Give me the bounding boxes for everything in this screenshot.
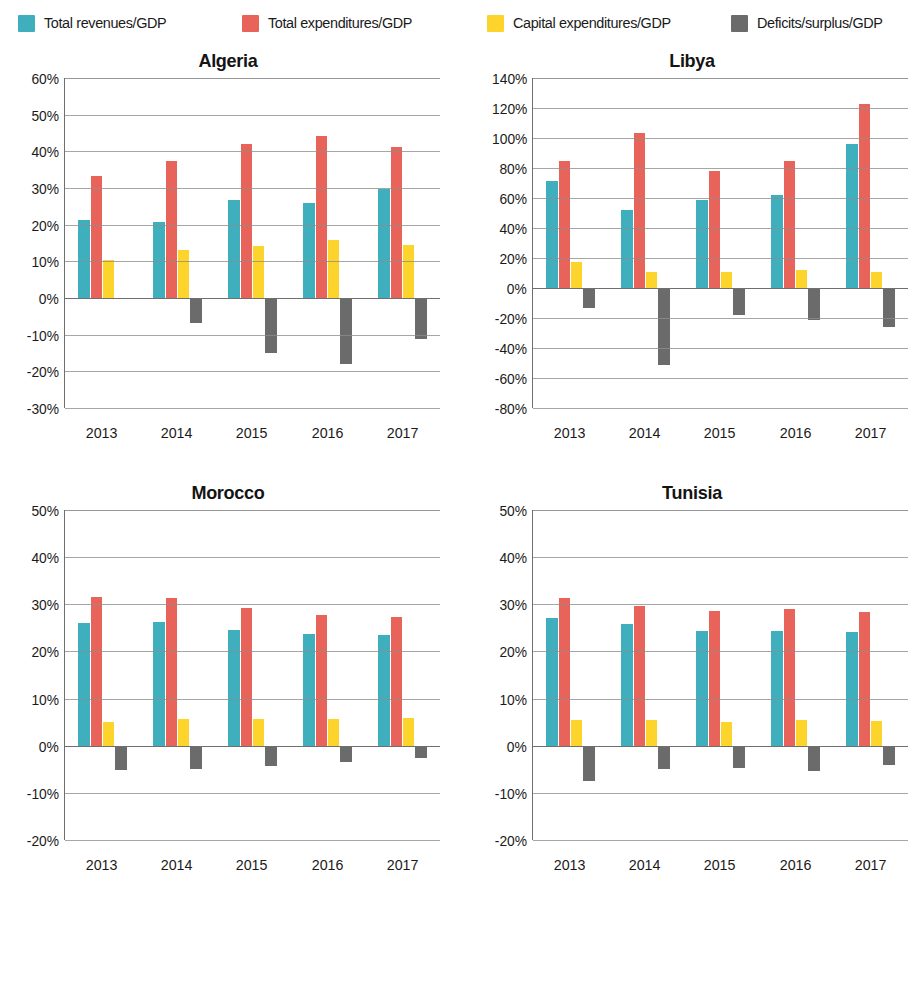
bar-2016-series-1: [784, 161, 796, 289]
bar-2015-series-1: [709, 171, 721, 288]
bar-groups-algeria: [65, 78, 440, 408]
bar-2017-series-2: [871, 721, 883, 746]
plot-canvas-tunisia: [532, 510, 908, 840]
bar-group-2016: [758, 510, 833, 840]
zero-axis-line: [65, 746, 440, 747]
bar-2015-series-1: [709, 611, 721, 746]
bar-2014-series-2: [646, 272, 658, 288]
x-tick-label-2017: 2017: [368, 424, 437, 442]
gridline: [65, 651, 440, 652]
bar-2014-series-2: [646, 720, 658, 746]
chart-title-morocco: Morocco: [19, 482, 437, 504]
chart-panel-libya: Libya 140%120%100%80%60%40%20%0%-20%-40%…: [468, 50, 916, 408]
bar-2016-series-3: [808, 746, 820, 771]
legend-label-deficit: Deficits/surplus/GDP: [757, 14, 883, 32]
bar-group-2013: [65, 78, 140, 408]
bar-2015-series-0: [696, 200, 708, 288]
gridline: [65, 151, 440, 152]
gridline: [533, 699, 908, 700]
bar-2016-series-0: [771, 631, 783, 746]
y-tick-label: 60%: [31, 70, 59, 87]
x-tick-label-2017: 2017: [836, 424, 905, 442]
gridline: [65, 510, 440, 511]
y-tick-label: 0%: [507, 280, 527, 297]
y-tick-label: -20%: [495, 832, 527, 849]
chart-grid: Algeria 60%50%40%30%20%10%0%-10%-20%-30%…: [0, 50, 916, 981]
bar-2016-series-2: [796, 720, 808, 746]
bar-2014-series-1: [166, 598, 178, 746]
bar-2014-series-1: [634, 606, 646, 746]
bar-2014-series-3: [658, 746, 670, 770]
gridline: [533, 840, 908, 841]
y-tick-label: 50%: [31, 106, 59, 123]
y-tick-label: 0%: [39, 290, 59, 307]
bar-2015-series-1: [241, 608, 253, 746]
bar-2016-series-1: [316, 136, 328, 298]
x-tick-label-2016: 2016: [761, 856, 830, 874]
plot-area-libya: 140%120%100%80%60%40%20%0%-20%-40%-60%-8…: [468, 78, 916, 408]
bar-2016-series-1: [316, 615, 328, 746]
bar-2013-series-2: [571, 262, 583, 288]
x-tick-label-2013: 2013: [535, 424, 604, 442]
y-tick-label: 50%: [499, 502, 527, 519]
gridline: [533, 408, 908, 409]
y-tick-label: 40%: [499, 549, 527, 566]
legend-label-expenditures: Total expenditures/GDP: [268, 14, 412, 32]
y-tick-label: 30%: [31, 180, 59, 197]
gridline: [65, 604, 440, 605]
y-tick-label: -30%: [27, 400, 59, 417]
gridline: [533, 78, 908, 79]
zero-axis-line: [533, 288, 908, 289]
bar-group-2015: [683, 78, 758, 408]
y-tick-label: -10%: [27, 784, 59, 801]
x-axis-tunisia: 20132014201520162017: [532, 856, 908, 874]
y-tick-label: 50%: [31, 502, 59, 519]
plot-canvas-libya: [532, 78, 908, 408]
bar-2017-series-3: [883, 746, 895, 765]
bar-2017-series-3: [415, 746, 427, 759]
y-tick-label: 0%: [39, 737, 59, 754]
legend-swatch-red-icon: [242, 15, 259, 32]
legend-swatch-teal-icon: [18, 15, 35, 32]
bar-2013-series-3: [583, 746, 595, 781]
chart-title-algeria: Algeria: [19, 50, 437, 72]
bar-2017-series-3: [415, 298, 427, 339]
bar-2017-series-1: [391, 617, 403, 745]
bar-2017-series-0: [846, 632, 858, 746]
bar-2014-series-3: [190, 746, 202, 769]
bar-2015-series-2: [253, 246, 265, 298]
y-tick-label: 80%: [499, 160, 527, 177]
gridline: [65, 793, 440, 794]
bar-groups-tunisia: [533, 510, 908, 840]
gridline: [533, 348, 908, 349]
x-tick-label-2015: 2015: [685, 856, 754, 874]
y-tick-label: 40%: [31, 143, 59, 160]
y-tick-label: 140%: [492, 70, 527, 87]
y-tick-label: 20%: [31, 643, 59, 660]
gridline: [65, 557, 440, 558]
legend-item-expenditures: Total expenditures/GDP: [242, 14, 423, 32]
chart-panel-morocco: Morocco 50%40%30%20%10%0%-10%-20% 201320…: [8, 482, 448, 840]
plot-area-algeria: 60%50%40%30%20%10%0%-10%-20%-30%: [8, 78, 448, 408]
bar-2014-series-2: [178, 719, 190, 745]
y-tick-label: -10%: [495, 784, 527, 801]
legend-item-revenues: Total revenues/GDP: [18, 14, 176, 32]
x-tick-label-2013: 2013: [67, 424, 136, 442]
y-tick-label: 30%: [499, 596, 527, 613]
bar-2013-series-1: [91, 597, 103, 746]
bar-2017-series-2: [403, 245, 415, 298]
gridline: [533, 108, 908, 109]
bar-2014-series-0: [153, 622, 165, 746]
gridline: [533, 510, 908, 511]
gridline: [533, 651, 908, 652]
x-tick-label-2016: 2016: [761, 424, 830, 442]
bar-2013-series-1: [559, 598, 571, 746]
gridline: [65, 261, 440, 262]
gridline: [533, 318, 908, 319]
chart-legend: Total revenues/GDP Total expenditures/GD…: [0, 14, 916, 40]
y-tick-label: 60%: [499, 190, 527, 207]
bar-2015-series-2: [721, 272, 733, 289]
chart-title-tunisia: Tunisia: [479, 482, 905, 504]
legend-label-revenues: Total revenues/GDP: [44, 14, 166, 32]
chart-panel-tunisia: Tunisia 50%40%30%20%10%0%-10%-20% 201320…: [468, 482, 916, 840]
